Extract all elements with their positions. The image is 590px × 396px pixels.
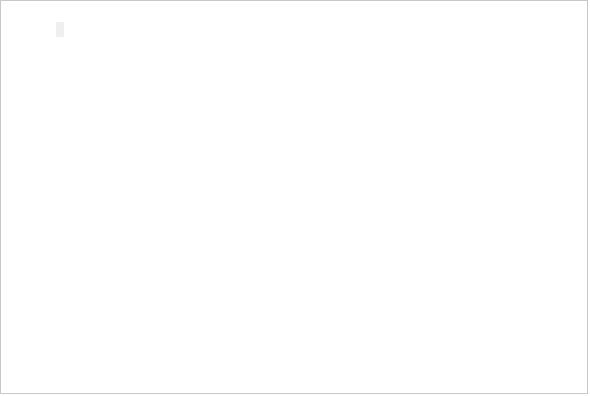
overview-chart-svg (1, 37, 589, 213)
overview-chart (1, 37, 589, 213)
detail-chart (1, 213, 589, 393)
subtitle-banner (56, 22, 64, 37)
chart-page (0, 0, 588, 394)
detail-chart-svg (1, 213, 589, 393)
